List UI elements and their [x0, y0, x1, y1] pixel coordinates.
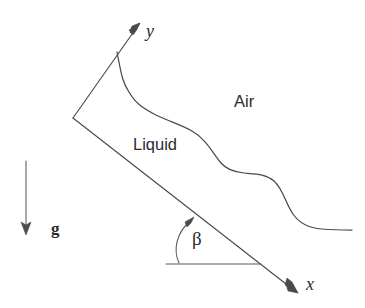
liquid-region-label: Liquid	[133, 135, 177, 153]
air-region-label: Air	[234, 92, 255, 110]
inclined-wall-line	[73, 118, 295, 291]
figure-canvas: y x Air Liquid β g	[0, 0, 365, 308]
angle-arc-arrowhead	[185, 217, 194, 227]
y-axis-line	[73, 27, 137, 118]
inclined-film-diagram: y x Air Liquid β g	[0, 0, 365, 308]
beta-angle-label: β	[192, 228, 202, 249]
gravity-label: g	[51, 219, 60, 238]
x-axis-label: x	[305, 274, 314, 294]
y-axis-label: y	[144, 21, 154, 41]
angle-arc	[176, 220, 191, 263]
